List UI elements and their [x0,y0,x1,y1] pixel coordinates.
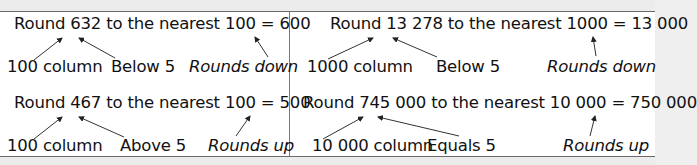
arrow-icon [593,37,596,56]
example-1-result-label: Rounds down [189,57,298,77]
example-4-equation: Round 745 000 to the nearest 10 000 = 75… [303,93,697,113]
arrow-icon [236,116,250,136]
example-1-digit-label: Below 5 [111,57,175,77]
example-2-column-label: 1000 column [307,57,413,77]
arrow-icon [393,38,437,57]
arrow-icon [328,38,373,59]
arrow-icon [255,37,268,57]
bottom-band [0,157,655,165]
example-3-digit-label: Above 5 [120,136,186,156]
example-2-result-label: Rounds down [547,57,656,77]
example-1-equation: Round 632 to the nearest 100 = 600 [14,14,310,34]
example-3-result-label: Rounds up [208,136,294,156]
arrow-icon [590,116,595,136]
example-4-result-label: Rounds up [563,136,649,156]
rounding-examples-table: Round 632 to the nearest 100 = 600 100 c… [0,11,655,157]
arrow-icon [378,117,459,136]
example-4-column-label: 10 000 column [312,136,433,156]
example-3-equation: Round 467 to the nearest 100 = 500 [14,93,310,113]
example-4-digit-label: Equals 5 [427,136,496,156]
top-band [0,0,655,11]
arrow-icon [79,117,124,137]
example-3-column-label: 100 column [7,136,102,156]
example-2-equation: Round 13 278 to the nearest 1000 = 13 00… [330,14,688,34]
arrow-icon [79,38,115,58]
example-2-digit-label: Below 5 [436,57,500,77]
example-1-column-label: 100 column [7,57,102,77]
